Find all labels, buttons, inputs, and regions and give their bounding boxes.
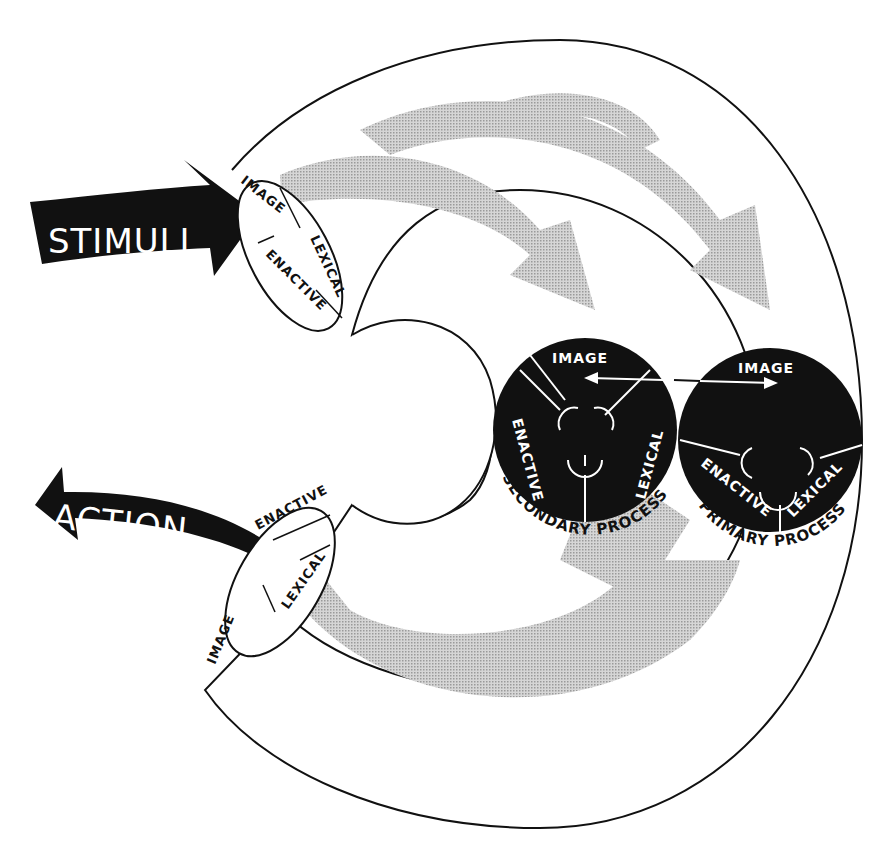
inner-cutout <box>352 320 496 524</box>
dual-process-diagram: STIMULI IMAGE LEXICAL ENACTIVE ACTION EN… <box>0 0 890 862</box>
flow-arrow-return <box>290 560 740 697</box>
primary-label-image: IMAGE <box>738 360 794 376</box>
stimuli-label: STIMULI <box>48 221 191 261</box>
secondary-label-image: IMAGE <box>552 350 608 366</box>
